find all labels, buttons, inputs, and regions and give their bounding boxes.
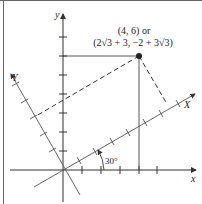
point-label-line2: (2√3 + 3, −2 + 3√3) [93, 37, 173, 49]
Y-axis-label: Y [12, 72, 19, 83]
rotated-axes-diagram: x y X [0, 0, 202, 204]
rotated-x-axis: X [34, 94, 195, 187]
y-axis-label: y [54, 9, 60, 20]
dashed-projection-X [139, 56, 167, 104]
x-axis-label: x [190, 173, 196, 184]
point-marker [136, 53, 142, 59]
y-axis: y [54, 9, 67, 202]
dashed-projection-Y [36, 56, 139, 116]
X-axis-label: X [183, 99, 191, 110]
rotated-y-axis: Y [11, 72, 80, 195]
angle-label: 30° [105, 156, 118, 166]
point-label-line1: (4, 6) or [118, 25, 151, 37]
x-axis: x [10, 166, 196, 184]
